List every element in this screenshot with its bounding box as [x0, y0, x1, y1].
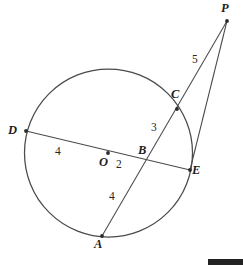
point-label-O: O — [99, 156, 108, 169]
point-dot-D — [24, 129, 28, 133]
length-label-cp: 5 — [192, 54, 198, 66]
point-label-C: C — [171, 88, 179, 101]
length-label-do: 4 — [55, 146, 61, 158]
point-label-D: D — [8, 124, 17, 137]
bottom-right-black-bar — [208, 259, 243, 265]
length-label-bc: 3 — [151, 122, 157, 134]
geometry-figure: P C D O B E A 4 2 3 4 5 — [0, 0, 243, 269]
point-label-P: P — [221, 2, 229, 15]
point-label-A: A — [94, 238, 102, 251]
geometry-canvas — [0, 0, 243, 269]
length-label-ab: 4 — [109, 191, 115, 203]
segment-e-to-p — [190, 21, 227, 170]
point-dot-P — [225, 19, 229, 23]
segment-a-to-p — [102, 21, 227, 236]
point-dot-C — [175, 107, 179, 111]
length-label-ob: 2 — [116, 159, 122, 171]
point-label-B: B — [138, 144, 146, 157]
point-label-E: E — [192, 164, 200, 177]
